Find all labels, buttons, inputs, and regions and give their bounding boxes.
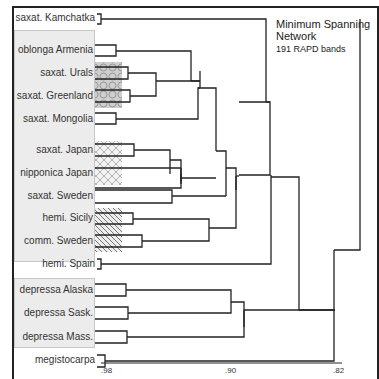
leaf-label: megistocarpa [35,354,95,365]
leaf-label: saxat. Kamchatka [16,12,95,23]
axis-tick-label: .82 [333,366,344,375]
leaf-label: depressa Alaska [20,284,93,295]
leaf-label: saxat. Mongolia [23,113,93,124]
leaf-label: hemi. Sicily [42,212,93,223]
axis-tick-label: .98 [101,366,112,375]
leaf-label: depressa Mass. [22,331,93,342]
title-line-2: Network [276,30,370,42]
leaf-label: comm. Sweden [24,235,93,246]
hexagon-pattern-swatch [95,62,122,108]
leaf-label: depressa Sask. [24,307,93,318]
leaf-label: saxat. Urals [40,67,93,78]
diagonal-pattern-swatch [95,208,122,252]
leaf-label: saxat. Japan [36,144,93,155]
leaf-label: oblonga Armenia [18,44,93,55]
title-line-1: Minimum Spanning [276,18,370,30]
chart-title: Minimum Spanning Network [276,18,370,42]
leaf-label: saxat. Sweden [27,190,93,201]
leaf-label: saxat. Greenland [17,90,93,101]
axis-tick-label: .90 [225,366,236,375]
leaf-label: nipponica Japan [20,167,93,178]
chart-subtitle: 191 RAPD bands [276,44,346,54]
crosshatch-pattern-swatch [95,141,122,185]
leaf-label: hemi. Spain [42,258,95,269]
